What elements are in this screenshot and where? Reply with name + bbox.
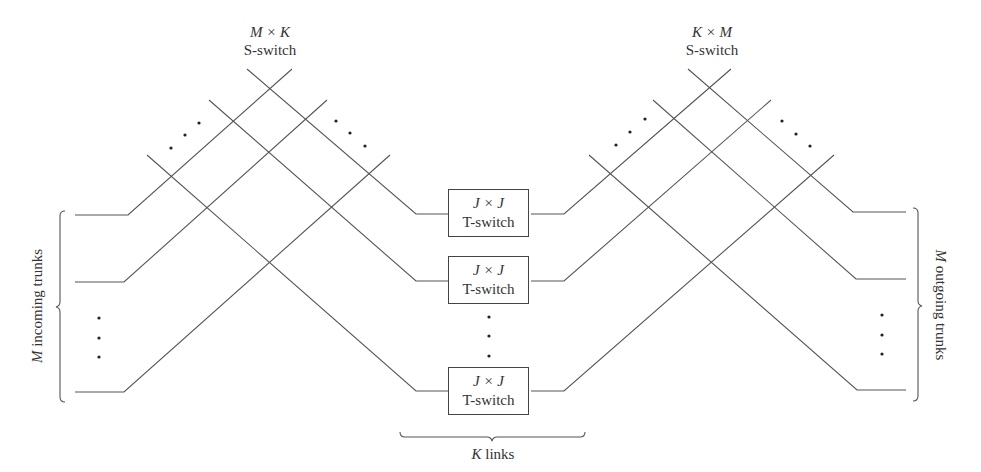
t-switch-1: J × J T-switch bbox=[448, 189, 529, 237]
incoming-trunk-3 bbox=[75, 155, 390, 392]
incoming-trunk-2 bbox=[75, 100, 327, 282]
right-link-2 bbox=[531, 100, 771, 281]
incoming-trunk-1 bbox=[75, 69, 292, 215]
left-s-switch-label: M × K S-switch bbox=[225, 23, 315, 59]
t-switch-2: J × J T-switch bbox=[448, 256, 529, 304]
k-links-var: K bbox=[472, 446, 482, 462]
t-switch-type: T-switch bbox=[449, 213, 528, 232]
right-brace bbox=[913, 208, 922, 401]
ellipsis-dots bbox=[97, 117, 883, 358]
t-switch-dims: J × J bbox=[449, 261, 528, 280]
left-brace bbox=[56, 211, 65, 402]
left-s-switch-type: S-switch bbox=[225, 41, 315, 59]
incoming-trunks-text: incoming trunks bbox=[29, 249, 45, 351]
right-link-3 bbox=[531, 155, 834, 391]
left-link-3 bbox=[147, 155, 448, 391]
right-s-switch-dims: K × M bbox=[667, 23, 757, 41]
outgoing-trunk-3 bbox=[589, 155, 906, 390]
left-link-2 bbox=[209, 100, 448, 281]
k-links-label: K links bbox=[443, 445, 543, 463]
incoming-trunks-label: M incoming trunks bbox=[29, 249, 46, 363]
right-s-switch-type: S-switch bbox=[667, 41, 757, 59]
incoming-trunks-var: M bbox=[29, 351, 45, 364]
t-switch-type: T-switch bbox=[449, 391, 528, 410]
tst-switch-diagram: M × K S-switch K × M S-switch J × J T-sw… bbox=[0, 0, 981, 472]
outgoing-trunks-label: M outgoing trunks bbox=[932, 250, 949, 361]
outgoing-trunk-2 bbox=[653, 100, 906, 279]
outgoing-trunk-1 bbox=[688, 69, 906, 212]
right-s-switch-label: K × M S-switch bbox=[667, 23, 757, 59]
outgoing-trunks-var: M bbox=[933, 250, 949, 263]
k-links-text: links bbox=[482, 446, 515, 462]
t-switch-3: J × J T-switch bbox=[448, 367, 529, 415]
t-switch-dims: J × J bbox=[449, 194, 528, 213]
t-switch-type: T-switch bbox=[449, 280, 528, 299]
t-switch-dims: J × J bbox=[449, 372, 528, 391]
outgoing-trunks-text: outgoing trunks bbox=[933, 262, 949, 360]
bottom-brace bbox=[400, 432, 585, 441]
left-s-switch-dims: M × K bbox=[225, 23, 315, 41]
